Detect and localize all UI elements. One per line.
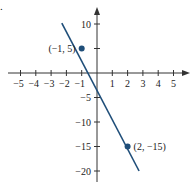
x-tick-label: −1: [74, 78, 85, 89]
x-tick-label: 4: [156, 78, 161, 89]
data-point-label: (−1, 5): [48, 43, 75, 55]
x-tick-label: 5: [171, 78, 176, 89]
x-tick-label: 3: [140, 78, 145, 89]
y-axis-arrow-icon: [94, 7, 100, 15]
data-point-label: (2, −15): [134, 141, 166, 153]
x-tick-label: 1: [110, 78, 115, 89]
chart: . −5−4−3−2−11234510−5−10−15−20 (−1, 5)(2…: [0, 0, 195, 190]
y-tick-label: 10: [81, 19, 91, 30]
y-tick-label: −20: [75, 166, 91, 177]
x-axis-arrow-icon: [182, 70, 190, 76]
data-point: [79, 46, 85, 52]
ticks: −5−4−3−2−11234510−5−10−15−20: [13, 19, 176, 177]
points: (−1, 5)(2, −15): [48, 43, 166, 153]
x-tick-label: 2: [125, 78, 130, 89]
x-tick-label: −4: [28, 78, 39, 89]
x-tick-label: −3: [44, 78, 55, 89]
part-label: .: [0, 0, 3, 12]
y-tick-label: −10: [75, 117, 91, 128]
x-tick-label: −5: [13, 78, 24, 89]
data-point: [125, 144, 131, 150]
y-tick-label: −5: [80, 92, 91, 103]
x-tick-label: −2: [59, 78, 70, 89]
y-tick-label: −15: [75, 141, 91, 152]
